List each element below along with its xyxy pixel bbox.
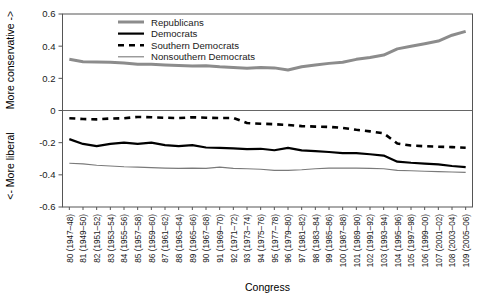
- x-tick-label: 99 (1985–86): [325, 214, 334, 263]
- x-tick-label: 81 (1949–50): [79, 214, 88, 263]
- x-tick-label: 92 (1971–72): [230, 214, 239, 263]
- x-tick-label: 104 (1995–96): [394, 214, 403, 268]
- x-tick-label: 108 (2003–04): [448, 214, 457, 268]
- y-axis-title-top: More conservative ->: [4, 11, 16, 109]
- x-tick-label: 107 (2001–02): [435, 214, 444, 268]
- x-tick-label: 90 (1967–68): [202, 214, 211, 263]
- x-tick-label: 88 (1963–64): [175, 214, 184, 263]
- x-tick-label: 85 (1957–58): [134, 214, 143, 263]
- x-tick-label: 100 (1987–88): [339, 214, 348, 268]
- x-tick-label: 83 (1953–54): [107, 214, 116, 263]
- legend-label-0: Republicans: [151, 17, 204, 28]
- x-tick-label: 102 (1991–92): [366, 214, 375, 268]
- x-tick-label: 89 (1965–66): [189, 214, 198, 263]
- x-tick-label: 106 (1999–00): [421, 214, 430, 268]
- x-tick-label: 84 (1955–56): [120, 214, 129, 263]
- x-tick-label: 105 (1997–98): [407, 214, 416, 268]
- y-tick-label: -0.6: [39, 201, 55, 212]
- x-tick-label: 97 (1981–82): [298, 214, 307, 263]
- y-tick-label: -0.4: [39, 169, 55, 180]
- x-tick-label: 80 (1947–48): [66, 214, 75, 263]
- y-tick-label: 0.6: [42, 8, 55, 19]
- x-tick-label: 101 (1989–90): [353, 214, 362, 268]
- y-tick-label: 0.2: [42, 73, 55, 84]
- x-tick-label: 86 (1959–60): [148, 214, 157, 263]
- x-tick-label: 93 (1973–74): [243, 214, 252, 263]
- x-tick-label: 94 (1975–76): [257, 214, 266, 263]
- x-tick-label: 82 (1951–52): [93, 214, 102, 263]
- x-axis-title: Congress: [245, 281, 290, 293]
- line-chart: 0.60.40.20-0.2-0.4-0.680 (1947–48)81 (19…: [0, 0, 493, 298]
- legend-label-1: Democrats: [151, 28, 198, 39]
- y-axis-title-bottom: <- More liberal: [4, 132, 16, 199]
- x-tick-label: 87 (1961–62): [161, 214, 170, 263]
- y-tick-label: 0.4: [42, 41, 55, 52]
- x-tick-label: 103 (1993–94): [380, 214, 389, 268]
- x-tick-label: 91 (1969–70): [216, 214, 225, 263]
- legend-label-2: Southern Democrats: [151, 40, 239, 51]
- legend-label-3: Nonsouthern Democrats: [151, 51, 255, 62]
- x-tick-label: 109 (2005–06): [462, 214, 471, 268]
- y-tick-label: 0: [50, 105, 55, 116]
- x-tick-label: 98 (1983–84): [312, 214, 321, 263]
- y-tick-label: -0.2: [39, 137, 55, 148]
- x-tick-label: 95 (1977–78): [271, 214, 280, 263]
- chart-container: 0.60.40.20-0.2-0.4-0.680 (1947–48)81 (19…: [0, 0, 493, 298]
- x-tick-label: 96 (1979–80): [284, 214, 293, 263]
